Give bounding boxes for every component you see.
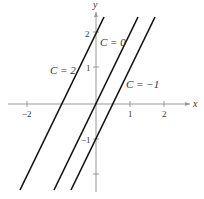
- x-tick-label: −2: [22, 109, 32, 119]
- curve-label-c-2: C = 2: [50, 64, 76, 76]
- y-tick-label: 1: [86, 63, 91, 73]
- x-axis-label: x: [192, 98, 198, 109]
- diagram: x y −2 1 2 2 1 −1 C = 2 C = 0 C = −1: [0, 0, 204, 199]
- curve-label-c-minus-1: C = −1: [126, 78, 159, 90]
- y-axis-label: y: [92, 0, 98, 10]
- y-tick-label: −1: [81, 135, 91, 145]
- x-tick-label: 1: [128, 109, 133, 119]
- y-tick-label: 2: [85, 29, 90, 39]
- x-tick-label: 2: [162, 109, 167, 119]
- curve-label-c-0: C = 0: [100, 36, 126, 48]
